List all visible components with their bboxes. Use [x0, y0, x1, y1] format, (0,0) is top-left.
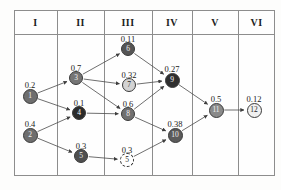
graph-node-12[interactable]: 12: [247, 103, 262, 118]
figure-canvas: IIIIIIIVVVI 0.210.420.730.140.350.1160.3…: [0, 0, 281, 190]
graph-node-6[interactable]: 6: [121, 42, 135, 56]
graph-node-10[interactable]: 10: [168, 128, 183, 143]
graph-node-11[interactable]: 11: [209, 103, 224, 118]
edge-4-to-8: [87, 113, 119, 114]
graph-node-5[interactable]: 5: [74, 149, 88, 163]
graph-node-7[interactable]: 7: [122, 78, 136, 92]
graph-node-2[interactable]: 2: [23, 128, 38, 143]
edge-7-to-9: [137, 81, 162, 84]
graph-node-9[interactable]: 9: [165, 73, 180, 88]
graph-node-3[interactable]: 3: [69, 71, 83, 85]
graph-node-5p[interactable]: 5: [120, 153, 134, 167]
edge-5-to-5p: [89, 157, 118, 159]
graph-node-1[interactable]: 1: [23, 89, 38, 104]
graph-node-4[interactable]: 4: [72, 106, 86, 120]
graph-node-8[interactable]: 8: [121, 107, 135, 121]
edge-layer: [0, 0, 281, 190]
